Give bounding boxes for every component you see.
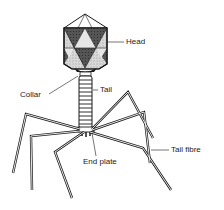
bacteriophage-diagram: [0, 0, 224, 210]
label-tail: Tail: [100, 86, 112, 94]
label-end-plate: End plate: [83, 158, 117, 166]
label-tail-fibre: Tail fibre: [171, 146, 201, 154]
label-head: Head: [126, 38, 145, 46]
tail-sheath: [79, 76, 92, 128]
label-collar: Collar: [20, 91, 41, 99]
head: [64, 14, 107, 69]
